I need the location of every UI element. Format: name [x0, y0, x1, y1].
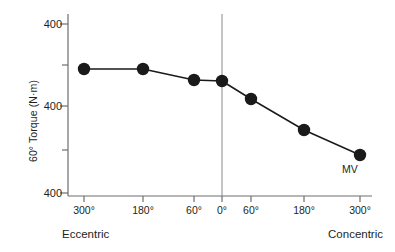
data-point-2	[188, 74, 200, 86]
x-tick-label-0: 300°	[62, 205, 106, 216]
caption-concentric: Concentric	[328, 228, 383, 240]
data-point-5	[298, 124, 310, 136]
y-tick-label-1: 400	[22, 101, 62, 112]
y-axis-title: 60° Torque (N·m)	[27, 41, 39, 201]
x-tick-label-5: 180°	[282, 205, 326, 216]
caption-eccentric: Eccentric	[62, 228, 109, 240]
y-tick-label-0: 400	[22, 19, 62, 30]
x-tick-label-6: 300°	[338, 205, 382, 216]
data-point-3	[216, 75, 228, 87]
data-point-1	[137, 63, 149, 75]
data-point-0	[78, 63, 90, 75]
x-tick-label-1: 180°	[121, 205, 165, 216]
y-tick-label-2: 400	[22, 188, 62, 199]
series-annotation-mv: MV	[342, 163, 358, 175]
data-point-4	[245, 93, 257, 105]
x-tick-label-4: 60°	[229, 205, 273, 216]
chart-figure: 60° Torque (N·m) 400 400 400	[0, 0, 395, 252]
data-point-6	[354, 149, 366, 161]
